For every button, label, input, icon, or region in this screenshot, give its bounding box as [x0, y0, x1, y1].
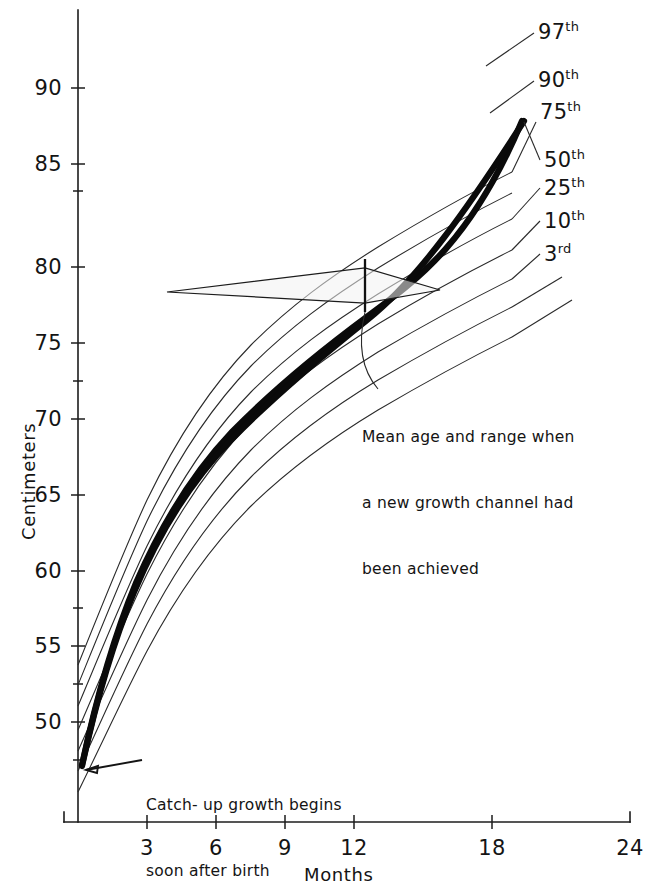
- x-tick-label-24: 24: [610, 838, 647, 859]
- annotation-catch-up-line-1: Catch- up growth begins: [146, 794, 342, 816]
- mean-age-range-diamond: [167, 259, 440, 312]
- x-tick-label-18: 18: [472, 838, 512, 859]
- percentile-value-25: 25: [544, 176, 571, 200]
- annotation-mean-age-range: Mean age and range when a new growth cha…: [362, 382, 575, 624]
- growth-chart-figure: 50 55 60 65 70 75 80 85 90 3 6 9 12 18 2…: [0, 0, 647, 885]
- annotation-catch-up-growth: Catch- up growth begins soon after birth: [146, 750, 342, 885]
- leader-3rd: [512, 254, 540, 279]
- leader-tail-10th: [512, 277, 562, 307]
- leader-tail-3rd: [512, 300, 572, 337]
- percentile-label-50th: 50th: [544, 148, 585, 171]
- catch-up-leader: [86, 760, 142, 773]
- percentile-ordinal-50: th: [571, 147, 585, 162]
- leader-90th: [490, 81, 534, 113]
- annotation-mean-age-line-3: been achieved: [362, 558, 575, 580]
- percentile-value-75: 75: [540, 100, 567, 124]
- annotation-catch-up-line-2: soon after birth: [146, 860, 342, 882]
- percentile-label-75th: 75th: [540, 100, 581, 123]
- y-tick-label-55: 55: [16, 636, 62, 657]
- y-tick-label-75: 75: [16, 333, 62, 354]
- y-tick-label-80: 80: [16, 257, 62, 278]
- percentile-ordinal-97: th: [565, 19, 579, 34]
- leader-10th: [512, 221, 540, 250]
- leader-25th: [512, 188, 540, 219]
- y-axis-title: Centimeters: [20, 423, 38, 540]
- percentile-value-90: 90: [538, 68, 565, 92]
- leader-97th: [486, 33, 534, 66]
- y-tick-label-60: 60: [16, 561, 62, 582]
- y-tick-label-90: 90: [16, 78, 62, 99]
- percentile-value-50: 50: [544, 148, 571, 172]
- percentile-ordinal-10: th: [571, 208, 585, 223]
- percentile-ordinal-90: th: [565, 67, 579, 82]
- percentile-label-25th: 25th: [544, 176, 585, 199]
- percentile-label-90th: 90th: [538, 68, 579, 91]
- y-tick-label-50: 50: [16, 712, 62, 733]
- percentile-value-3: 3: [544, 242, 558, 266]
- percentile-label-97th: 97th: [538, 20, 579, 43]
- percentile-label-10th: 10th: [544, 209, 585, 232]
- annotation-mean-age-line-1: Mean age and range when: [362, 426, 575, 448]
- percentile-ordinal-25: th: [571, 175, 585, 190]
- annotation-mean-age-line-2: a new growth channel had: [362, 492, 575, 514]
- percentile-value-10: 10: [544, 209, 571, 233]
- percentile-value-97: 97: [538, 20, 565, 44]
- percentile-ordinal-75: th: [567, 99, 581, 114]
- percentile-ordinal-3: rd: [558, 241, 572, 256]
- y-tick-label-85: 85: [16, 154, 62, 175]
- percentile-label-3rd: 3rd: [544, 242, 571, 265]
